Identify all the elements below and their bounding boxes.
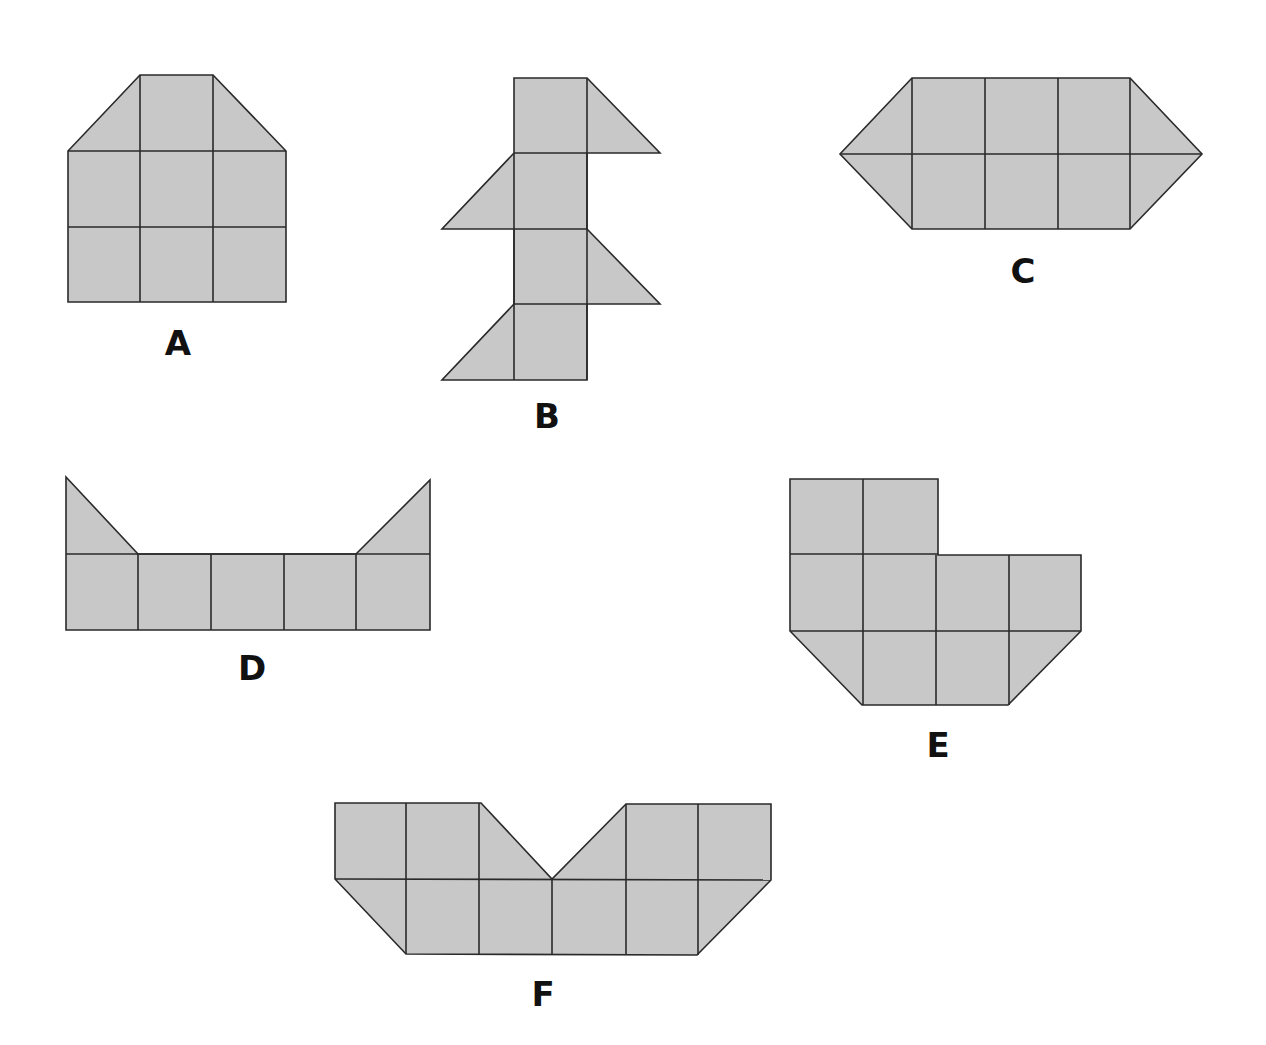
figure-e-label: E	[926, 725, 949, 765]
figure-c-label: C	[1011, 251, 1036, 291]
figure-b: B	[442, 78, 660, 436]
figure-a: A	[68, 75, 286, 363]
figure-e: E	[790, 479, 1081, 765]
figure-canvas: A B C D E F	[0, 0, 1266, 1045]
figure-d: D	[66, 477, 430, 688]
grid-line	[335, 879, 771, 880]
figure-b-label: B	[534, 396, 560, 436]
figure-f: F	[335, 803, 771, 1014]
figure-f-label: F	[531, 974, 554, 1014]
figure-a-label: A	[165, 323, 192, 363]
figure-a-outline	[68, 75, 286, 302]
figure-c: C	[840, 78, 1202, 291]
figure-d-label: D	[238, 648, 266, 688]
